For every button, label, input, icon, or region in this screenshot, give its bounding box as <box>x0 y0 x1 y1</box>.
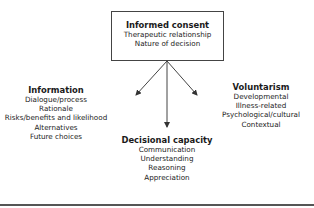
decisional-capacity-item: Appreciation <box>110 173 224 182</box>
information-node: Information Dialogue/process Rationale R… <box>0 85 112 141</box>
information-item: Dialogue/process <box>0 95 112 104</box>
voluntarism-item: Illness-related <box>208 101 314 110</box>
decisional-capacity-item: Understanding <box>110 154 224 163</box>
decisional-capacity-item: Reasoning <box>110 163 224 172</box>
decisional-capacity-node: Decisional capacity Communication Unders… <box>110 135 224 182</box>
arrow-to-information <box>136 61 167 95</box>
voluntarism-title: Voluntarism <box>208 82 314 92</box>
bottom-rule-divider <box>0 204 314 206</box>
information-item: Risks/benefits and likelihood <box>0 113 112 122</box>
arrow-to-voluntarism <box>167 61 197 95</box>
information-title: Information <box>0 85 112 95</box>
information-item: Alternatives <box>0 123 112 132</box>
decisional-capacity-title: Decisional capacity <box>110 135 224 145</box>
voluntarism-item: Contextual <box>208 120 314 129</box>
information-item: Future choices <box>0 132 112 141</box>
decisional-capacity-item: Communication <box>110 145 224 154</box>
voluntarism-item: Developmental <box>208 92 314 101</box>
voluntarism-node: Voluntarism Developmental Illness-relate… <box>208 82 314 129</box>
information-item: Rationale <box>0 104 112 113</box>
voluntarism-item: Psychological/cultural <box>208 110 314 119</box>
